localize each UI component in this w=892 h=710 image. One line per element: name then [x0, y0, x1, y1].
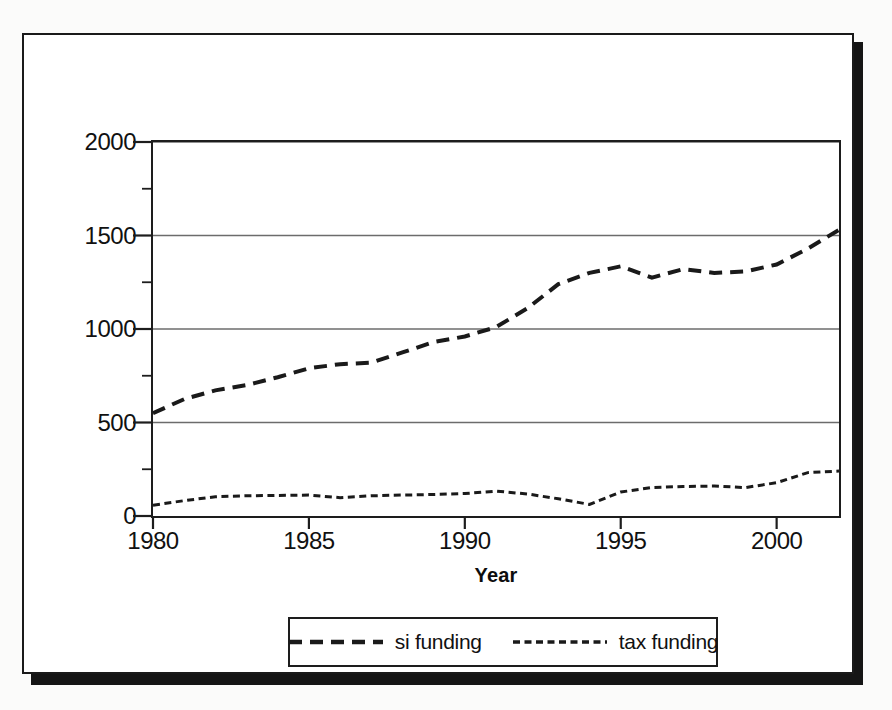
x-axis-tick-label: 1990	[439, 527, 490, 555]
y-axis-tick-label: 2000	[85, 128, 136, 156]
x-axis-tick-label: 1980	[127, 527, 178, 555]
legend-item-si-funding: si funding	[288, 630, 482, 654]
x-axis-tick-labels: 19801985199019952000	[24, 527, 892, 559]
legend-label-si-funding: si funding	[395, 630, 482, 654]
legend-swatch-si-funding	[288, 637, 384, 647]
chart-legend: si funding tax funding	[288, 617, 718, 667]
y-axis-tick-label: 1000	[85, 315, 136, 343]
legend-swatch-tax-funding	[512, 637, 608, 647]
y-axis-tick-labels: 0500100015002000	[46, 140, 136, 518]
legend-item-tax-funding: tax funding	[512, 630, 718, 654]
figure-outer-box: 0500100015002000 19801985199019952000 Ye…	[22, 33, 854, 674]
chart-canvas	[153, 142, 839, 516]
x-axis-ticks	[24, 516, 892, 530]
y-axis-tick-label: 1500	[85, 222, 136, 250]
legend-label-tax-funding: tax funding	[619, 630, 718, 654]
x-axis-tick-label: 1985	[283, 527, 334, 555]
y-axis-ticks	[133, 135, 173, 523]
y-axis-tick-label: 500	[97, 409, 136, 437]
plot-area	[151, 140, 841, 518]
x-axis-title: Year	[151, 564, 841, 587]
page-top-caption	[10, 0, 770, 14]
figure-bottom-rule	[31, 676, 863, 685]
x-axis-tick-label: 2000	[751, 527, 802, 555]
x-axis-tick-label: 1995	[595, 527, 646, 555]
